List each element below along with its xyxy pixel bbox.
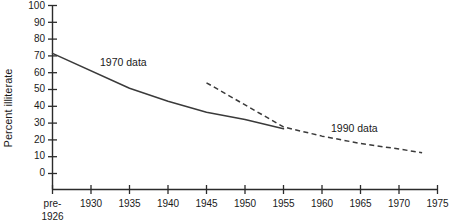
chart-canvas: Percent illiterate 100 90 80 70 60 50 40… <box>0 0 449 224</box>
x-tick-labels: pre- 1926 1930 1935 1940 1945 1950 1955 … <box>41 198 449 222</box>
y-tick-label: 30 <box>34 117 46 128</box>
y-tick-label: 20 <box>34 134 46 145</box>
y-tick-label: 60 <box>34 67 46 78</box>
y-tick-label: 100 <box>28 0 45 11</box>
series-annotation-1990-data: 1990 data <box>331 122 378 134</box>
x-tick-label-secondline: 1926 <box>41 211 64 222</box>
x-tick-label: 1930 <box>80 198 103 209</box>
x-tick-label: 1975 <box>426 198 449 209</box>
illiteracy-line-chart: Percent illiterate 100 90 80 70 60 50 40… <box>0 0 449 224</box>
x-tick-label: 1955 <box>272 198 295 209</box>
y-tick-label: 90 <box>34 17 46 28</box>
x-tick-label: 1945 <box>195 198 218 209</box>
y-tick-labels: 100 90 80 70 60 50 40 30 20 10 0 <box>28 0 45 178</box>
x-tick-label: 1935 <box>118 198 141 209</box>
y-tick-label: 70 <box>34 50 46 61</box>
y-tick-label: 80 <box>34 33 46 44</box>
y-axis-title: Percent illiterate <box>2 69 14 148</box>
series-line-1970-data <box>53 53 284 128</box>
y-tick-label: 10 <box>34 150 46 161</box>
x-tick-label: 1950 <box>234 198 257 209</box>
series-annotation-1970-data: 1970 data <box>100 56 147 68</box>
x-tick-label: 1960 <box>311 198 334 209</box>
x-tick-label: 1970 <box>388 198 411 209</box>
x-tick-label: pre- <box>44 198 62 209</box>
y-tick-label: 0 <box>39 167 45 178</box>
x-tick-label: 1940 <box>157 198 180 209</box>
y-tick-label: 50 <box>34 83 46 94</box>
y-tick-label: 40 <box>34 100 46 111</box>
x-tick-label: 1965 <box>349 198 372 209</box>
